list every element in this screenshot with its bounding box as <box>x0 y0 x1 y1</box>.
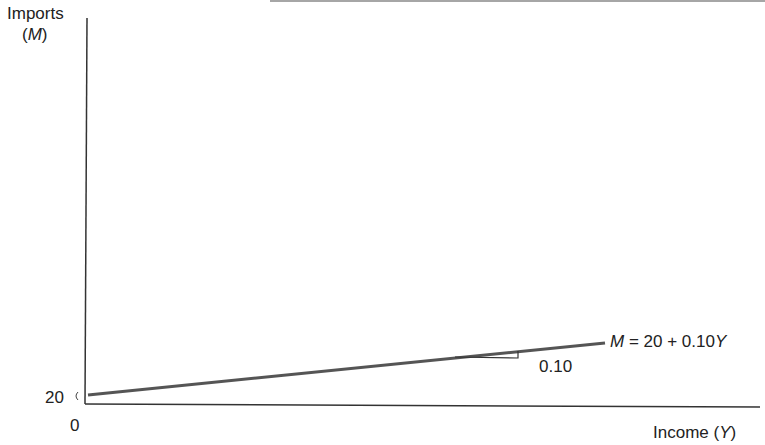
import-function-line <box>88 343 605 395</box>
x-axis-label-text: Income <box>653 423 709 442</box>
x-axis <box>85 404 760 407</box>
y-tick-20 <box>76 392 78 400</box>
eq-var-y: Y <box>715 332 726 351</box>
y-axis-var: M <box>28 25 42 44</box>
slope-label: 0.10 <box>539 357 572 377</box>
eq-var-m: M <box>610 332 624 351</box>
eq-body: = 20 + 0.10 <box>624 332 715 351</box>
x-axis-label: Income (Y) <box>653 423 736 443</box>
x-axis-var: Y <box>719 423 730 442</box>
y-axis-label-line1: Imports <box>7 4 64 24</box>
y-axis <box>85 18 87 404</box>
y-tick-label-20: 20 <box>45 388 64 408</box>
line-equation-label: M = 20 + 0.10Y <box>610 332 726 352</box>
origin-label: 0 <box>70 416 79 436</box>
y-axis-label-line2: (M) <box>22 25 48 45</box>
chart-canvas <box>0 0 765 445</box>
